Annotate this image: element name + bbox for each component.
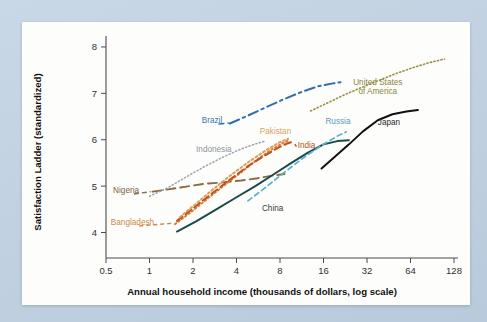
label-leader <box>293 142 296 147</box>
series-label-united-states-of-america: United Statesof America <box>353 78 402 97</box>
y-tick-label-6: 6 <box>92 134 97 145</box>
series-label-russia: Russia <box>325 117 350 126</box>
label-leader <box>218 123 229 124</box>
series-label-pakistan: Pakistan <box>260 127 292 136</box>
series-label-china: China <box>262 204 284 213</box>
x-tick-label-64: 64 <box>405 265 416 276</box>
chart-card: 456780.51248163264128 NigeriaBangladeshI… <box>22 22 470 305</box>
x-tick-label-16: 16 <box>318 265 329 276</box>
series-label-india: India <box>298 141 316 150</box>
x-tick-label-0.5: 0.5 <box>99 265 112 276</box>
y-tick-label-8: 8 <box>92 41 97 52</box>
chart-series-labels: NigeriaBangladeshIndiaPakistanIndonesiaC… <box>111 78 403 227</box>
x-tick-label-128: 128 <box>446 265 462 276</box>
x-tick-label-4: 4 <box>234 265 239 276</box>
series-line-china <box>177 140 349 231</box>
y-tick-label-7: 7 <box>92 88 97 99</box>
x-axis-title: Annual household income (thousands of do… <box>127 286 397 297</box>
series-label-japan: Japan <box>378 118 401 127</box>
y-axis-title: Satisfaction Ladder (standardized) <box>32 73 43 230</box>
y-tick-label-4: 4 <box>92 227 97 238</box>
screenshot-root: 456780.51248163264128 NigeriaBangladeshI… <box>0 0 487 322</box>
series-label-indonesia: Indonesia <box>196 145 232 154</box>
x-tick-label-8: 8 <box>277 265 282 276</box>
chart-plot-area: 456780.51248163264128 NigeriaBangladeshI… <box>22 22 470 305</box>
x-tick-label-32: 32 <box>362 265 373 276</box>
x-tick-label-2: 2 <box>190 265 195 276</box>
satisfaction-income-chart: 456780.51248163264128 NigeriaBangladeshI… <box>22 22 470 305</box>
x-tick-label-1: 1 <box>147 265 152 276</box>
y-tick-label-5: 5 <box>92 181 97 192</box>
series-line-brazil <box>230 82 341 123</box>
chart-axis-titles: Annual household income (thousands of do… <box>32 73 397 297</box>
chart-axes: 456780.51248163264128 <box>92 36 462 276</box>
